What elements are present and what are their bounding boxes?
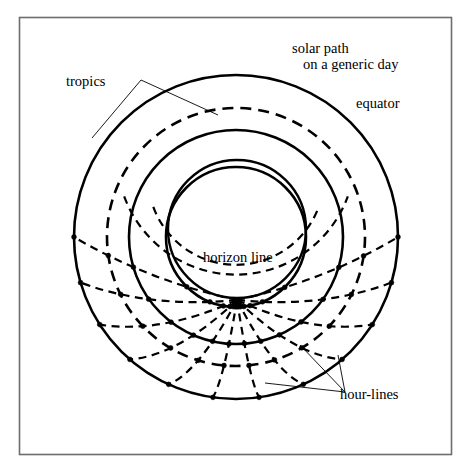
label-tropics: tropics	[66, 73, 106, 89]
intersection-dot	[349, 292, 354, 297]
intersection-dot	[361, 253, 366, 258]
intersection-dot	[277, 332, 282, 337]
intersection-dot	[247, 363, 252, 368]
label-solar-path-line2: on a generic day	[303, 56, 399, 72]
intersection-dot	[301, 382, 306, 387]
intersection-dot	[196, 358, 201, 363]
intersection-dot	[118, 292, 123, 297]
astrolabe-diagram: tropics solar path on a generic day equa…	[0, 0, 470, 473]
intersection-dot	[78, 280, 83, 285]
intersection-dot	[106, 253, 111, 258]
intersection-dot	[272, 358, 277, 363]
intersection-dot	[207, 299, 212, 304]
label-hour-lines: hour-lines	[340, 386, 399, 402]
intersection-dot	[191, 333, 196, 338]
label-solar-path-line1: solar path	[292, 40, 350, 56]
label-equator: equator	[356, 95, 400, 111]
intersection-dot	[168, 346, 173, 351]
intersection-dot	[72, 235, 77, 240]
intersection-dot	[128, 357, 133, 362]
intersection-dot	[389, 280, 394, 285]
intersection-dot	[166, 382, 171, 387]
intersection-dot	[221, 304, 226, 309]
intersection-dot	[321, 297, 326, 302]
intersection-dot	[282, 285, 287, 290]
intersection-dot	[131, 265, 136, 270]
intersection-dot	[169, 320, 174, 325]
figure-root: tropics solar path on a generic day equa…	[0, 0, 470, 473]
intersection-dot	[242, 304, 247, 309]
intersection-dot	[242, 341, 247, 346]
intersection-dot	[211, 395, 216, 400]
intersection-dot	[184, 284, 189, 289]
intersection-dot	[140, 324, 145, 329]
intersection-dot	[340, 357, 345, 362]
intersection-dot	[299, 345, 304, 350]
intersection-dot	[327, 324, 332, 329]
intersection-dot	[210, 339, 215, 344]
label-horizon-line: horizon line	[203, 249, 273, 265]
intersection-dot	[222, 363, 227, 368]
intersection-dot	[227, 342, 232, 347]
intersection-dot	[260, 299, 265, 304]
intersection-dot	[370, 322, 375, 327]
intersection-dot	[336, 265, 341, 270]
intersection-dot	[97, 322, 102, 327]
intersection-dot	[258, 339, 263, 344]
intersection-dot	[248, 303, 253, 308]
intersection-dot	[146, 297, 151, 302]
intersection-dot	[299, 320, 304, 325]
intersection-dot	[396, 235, 401, 240]
intersection-dot	[257, 395, 262, 400]
